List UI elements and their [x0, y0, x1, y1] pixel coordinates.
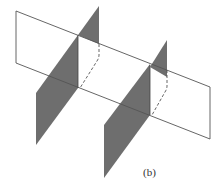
vertical-plane-2-hidden-edge: [152, 70, 167, 115]
vertical-plane-2: [104, 40, 167, 178]
figure-label: (b): [143, 166, 156, 179]
vertical-plane-1-upper: [78, 6, 99, 44]
diagram-canvas: (b): [0, 0, 221, 189]
vertical-plane-1: [36, 6, 99, 145]
vertical-plane-2-front: [104, 64, 150, 178]
vertical-plane-1-front: [36, 35, 78, 145]
vertical-plane-1-hidden-edge: [80, 44, 99, 88]
vertical-plane-2-upper: [150, 40, 167, 77]
